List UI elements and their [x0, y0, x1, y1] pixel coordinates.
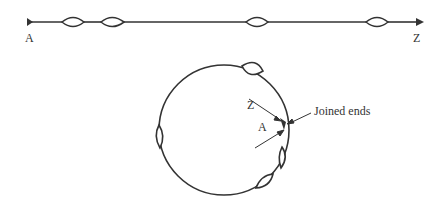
- arrowhead-icon: [416, 18, 424, 26]
- linear-start-label: A: [25, 32, 34, 44]
- diagram-canvas: [0, 0, 445, 207]
- circular-molecule: [156, 62, 289, 195]
- start-marker-icon: [27, 18, 33, 26]
- joined-ends-marker-icon: [280, 118, 286, 130]
- linear-end-label: Z: [413, 32, 420, 44]
- linear-molecule: [28, 18, 418, 27]
- joined-ends-label: Joined ends: [314, 105, 370, 117]
- circular-a-label: A: [258, 121, 267, 133]
- circular-z-label: Z: [247, 99, 254, 111]
